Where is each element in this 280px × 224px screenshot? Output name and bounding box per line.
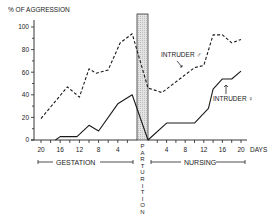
y-tick-label: 20	[22, 114, 30, 121]
gestation-label: GESTATION	[56, 159, 95, 166]
annotation-intruder-female: INTRUDER ♀	[213, 95, 253, 102]
x-tick-label: 16	[57, 146, 65, 153]
y-axis: 020406080100	[18, 20, 34, 143]
svg-text:A: A	[140, 150, 144, 156]
svg-text:I: I	[142, 196, 144, 202]
y-axis-title: % OF AGGRESSION	[8, 6, 70, 13]
svg-text:N: N	[140, 209, 144, 215]
days-label: DAYS	[250, 146, 268, 153]
parturition-band	[137, 14, 148, 140]
x-tick-label: 8	[183, 146, 187, 153]
annotation-intruder-male: INTRUDER ♂	[161, 51, 201, 58]
svg-text:T: T	[141, 189, 145, 195]
svg-text:O: O	[140, 202, 145, 208]
y-tick-label: 100	[18, 23, 29, 30]
svg-text:P: P	[140, 143, 144, 149]
y-tick-label: 60	[22, 69, 30, 76]
aggression-chart: % OF AGGRESSION 020406080100 20161284481…	[0, 0, 280, 224]
parturition-label: PARTURITION	[140, 143, 145, 215]
svg-text:T: T	[141, 163, 145, 169]
svg-text:I: I	[142, 183, 144, 189]
x-tick-label: 4	[116, 146, 120, 153]
svg-text:R: R	[140, 156, 145, 162]
y-tick-label: 0	[25, 136, 29, 143]
gestation-range: GESTATION	[38, 159, 133, 166]
x-tick-label: 12	[76, 146, 84, 153]
nursing-label: NURSING	[184, 159, 216, 166]
x-tick-label: 4	[165, 146, 169, 153]
nursing-range: NURSING	[151, 159, 245, 166]
svg-text:U: U	[140, 169, 144, 175]
x-axis: 2016128448121620	[31, 140, 247, 153]
x-tick-label: 16	[219, 146, 227, 153]
y-tick-label: 40	[22, 91, 30, 98]
x-tick-label: 20	[237, 146, 245, 153]
x-tick-label: 8	[97, 146, 101, 153]
svg-text:R: R	[140, 176, 145, 182]
x-tick-label: 12	[200, 146, 208, 153]
annotation-arrow-male	[177, 61, 182, 67]
y-tick-label: 80	[22, 46, 30, 53]
x-tick-label: 20	[37, 146, 45, 153]
